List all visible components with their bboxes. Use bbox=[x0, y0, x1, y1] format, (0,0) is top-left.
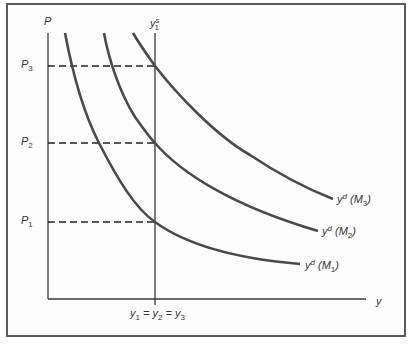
demand-curve-m1 bbox=[65, 33, 300, 264]
price-level-2-label: P2 bbox=[21, 136, 33, 150]
demand-curve-m1-label: yd (M1) bbox=[305, 259, 339, 274]
demand-curve-m3 bbox=[133, 33, 333, 199]
aggregate-demand-diagram bbox=[0, 0, 408, 344]
price-level-1-label: P1 bbox=[21, 215, 33, 229]
demand-curve-m3-label: yd (M3) bbox=[337, 193, 371, 208]
output-axis-label: y bbox=[376, 296, 382, 307]
demand-curve-m2-label: yd (M2) bbox=[322, 225, 356, 240]
price-axis-label: P bbox=[44, 16, 51, 27]
price-level-3-label: P3 bbox=[21, 59, 33, 73]
output-equality-label: y1 = y2 = y3 bbox=[130, 308, 185, 322]
supply-line-label: ys1 bbox=[150, 17, 159, 32]
demand-curve-m2 bbox=[104, 33, 318, 231]
